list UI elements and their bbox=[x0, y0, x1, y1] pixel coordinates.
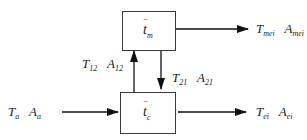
t-subscript: a bbox=[15, 112, 19, 121]
label-bottom-output: Tei Aei bbox=[256, 104, 293, 121]
node-box-c: ‾ tc bbox=[120, 92, 176, 134]
label-up-c-to-m: T12 A12 bbox=[82, 56, 123, 73]
a-symbol: A bbox=[107, 56, 115, 71]
subscript: c bbox=[147, 113, 151, 122]
node-label-m: ‾ tm bbox=[143, 22, 153, 40]
t-subscript: 12 bbox=[89, 64, 97, 73]
a-symbol: A bbox=[285, 21, 293, 36]
node-box-m: ‾ tm bbox=[122, 11, 176, 51]
a-symbol: A bbox=[279, 104, 287, 119]
label-input: Ta Aa bbox=[8, 104, 41, 121]
t-subscript: 21 bbox=[179, 78, 187, 87]
t-subscript: ei bbox=[263, 112, 269, 121]
a-symbol: A bbox=[197, 70, 205, 85]
flow-diagram: ‾ tm ‾ tc Tmei Amei T12 A12 T21 A21 Ta A… bbox=[0, 0, 307, 140]
a-subscript: ei bbox=[287, 112, 293, 121]
t-subscript: mei bbox=[263, 29, 275, 38]
a-symbol: A bbox=[29, 104, 37, 119]
a-subscript: 21 bbox=[205, 78, 213, 87]
a-subscript: mei bbox=[293, 29, 305, 38]
label-top-output: Tmei Amei bbox=[256, 21, 304, 38]
label-down-m-to-c: T21 A21 bbox=[172, 70, 213, 87]
node-label-c: ‾ tc bbox=[143, 104, 150, 122]
overbar: ‾ bbox=[144, 101, 147, 112]
a-subscript: a bbox=[37, 112, 41, 121]
a-subscript: 12 bbox=[115, 64, 123, 73]
subscript: m bbox=[147, 31, 153, 40]
overbar: ‾ bbox=[144, 19, 147, 30]
